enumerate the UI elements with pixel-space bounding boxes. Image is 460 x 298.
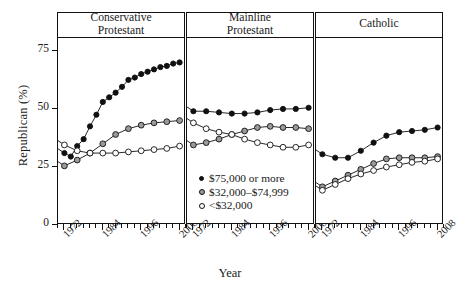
facet-label-line1: Catholic [359,18,398,31]
y-tick-label: 0 [15,216,49,228]
data-point-marker [242,136,248,142]
x-tick-mark [218,224,219,228]
y-tick-label: 25 [15,158,49,170]
x-tick-mark [127,224,128,228]
data-point-marker [280,125,286,131]
data-point-marker [397,130,402,135]
data-point-marker [384,164,390,170]
data-point-marker [255,110,260,115]
y-tick-label: 75 [15,42,49,54]
series-line [193,108,308,114]
data-point-marker [177,118,183,124]
x-tick-mark [224,224,225,228]
data-point-marker [191,120,197,126]
data-point-marker [306,142,312,148]
legend: $75,000 or more $32,000–$74,999 <$32,000 [196,172,289,213]
data-point-marker [280,106,285,111]
data-point-marker [333,155,338,160]
legend-item: $32,000–$74,999 [196,186,289,200]
data-point-marker [139,71,144,76]
x-tick-mark [57,224,58,228]
data-point-marker [158,64,163,69]
x-tick-mark [166,224,167,228]
data-point-marker [177,143,183,149]
series-canvas [58,38,186,224]
data-point-marker [371,140,376,145]
y-tick-label: 50 [15,100,49,112]
data-point-marker [293,125,299,131]
data-point-marker [435,156,441,162]
x-tick-mark [172,224,173,228]
data-point-marker [126,149,132,155]
series-line [322,128,437,158]
data-point-marker [409,159,415,165]
data-point-marker [216,110,221,115]
data-point-marker [320,152,325,157]
data-point-marker [132,75,137,80]
series-canvas [316,38,444,224]
x-tick-mark [430,224,431,228]
data-point-marker [384,133,389,138]
x-tick-mark [256,224,257,228]
data-point-marker [151,67,156,72]
data-point-marker [332,182,338,188]
y-axis-title: Republican (%) [16,41,31,211]
data-point-marker [268,107,273,112]
x-tick-mark [347,224,348,228]
facet-strip-conservative-protestant: ConservativeProtestant [57,12,185,38]
data-point-marker [242,111,247,116]
legend-label: $32,000–$74,999 [207,186,289,200]
data-point-marker [107,95,112,100]
data-point-marker [191,142,197,148]
data-point-marker [151,147,157,153]
data-point-marker [126,77,131,82]
series-line [64,62,179,156]
legend-item: <$32,000 [196,199,289,213]
filled-circle-icon [196,176,207,181]
data-point-marker [255,140,261,146]
data-point-marker [81,137,86,142]
data-point-marker [177,60,182,65]
data-point-marker [126,126,132,132]
legend-label: <$32,000 [207,199,252,213]
x-axis-title: Year [0,266,460,281]
data-point-marker [62,150,67,155]
series-line [64,145,179,153]
data-point-marker [255,125,261,131]
facet-label-line2: Protestant [227,25,273,38]
data-point-marker [203,140,209,146]
data-point-marker [68,154,73,159]
facet-label-line1: Conservative [90,12,151,25]
data-point-marker [306,126,312,132]
data-point-marker [62,142,68,148]
data-point-marker [216,136,222,142]
data-point-marker [371,168,377,174]
plot-panel-conservative-protestant [57,38,185,224]
data-point-marker [306,105,311,110]
chart-figure: Republican (%) Year 0255075 Conservative… [0,0,460,298]
open-circle-icon [196,203,207,209]
x-tick-mark [301,224,302,228]
x-tick-mark [186,224,187,228]
data-point-marker [62,163,68,169]
data-point-marker [358,171,364,177]
x-tick-mark [263,224,264,228]
data-point-marker [242,128,248,134]
data-point-marker [191,109,196,114]
data-point-marker [164,146,170,152]
data-point-marker [138,148,144,154]
data-point-marker [119,84,124,89]
series-line [193,126,308,145]
x-tick-mark [353,224,354,228]
data-point-marker [100,99,105,104]
data-point-marker [384,156,390,162]
data-point-marker [345,176,351,182]
facet-label-line2: Protestant [90,25,151,38]
data-point-marker [113,90,118,95]
data-point-marker [100,141,106,147]
series-line [193,123,308,147]
data-point-marker [87,150,93,156]
data-point-marker [293,106,298,111]
data-point-marker [358,148,363,153]
series-line [322,159,437,190]
